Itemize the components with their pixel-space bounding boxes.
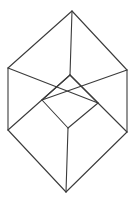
cube-edge-inner-bottom-left — [42, 100, 68, 128]
cube-edge-outline-top-left — [8, 11, 72, 68]
cube-edge-outline-bottom-right — [66, 132, 127, 192]
cube-edge-inner-bottom-right — [68, 103, 98, 128]
cube-edge-spoke-top — [70, 11, 72, 75]
necker-cube-figure — [0, 0, 137, 204]
cube-edge-outline-top-right — [72, 11, 127, 70]
cube-edge-group — [8, 11, 127, 192]
cube-edge-spoke-bottom — [66, 128, 68, 192]
cube-edge-diagonal-upper-right — [42, 70, 127, 100]
cube-edge-inner-top-left — [42, 75, 70, 100]
cube-edge-outline-bottom-left — [8, 130, 66, 192]
figure-canvas — [0, 0, 137, 204]
